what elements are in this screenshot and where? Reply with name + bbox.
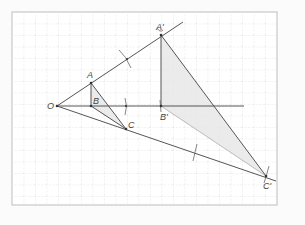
geometry-figure: O A B C A' B' C': [0, 0, 305, 225]
point-O: [56, 105, 59, 108]
label-Aprime: A': [155, 22, 164, 32]
label-Cprime: C': [263, 181, 271, 191]
point-Aprime: [160, 34, 163, 37]
point-A: [90, 82, 93, 85]
point-on-OA-arc: [126, 58, 128, 60]
point-C: [125, 128, 128, 131]
point-B: [90, 105, 93, 108]
label-A: A: [86, 70, 93, 80]
label-Bprime: B': [160, 112, 168, 122]
point-Cprime: [265, 175, 268, 178]
label-C: C: [128, 120, 135, 130]
point-on-OB-arc: [125, 105, 127, 107]
label-B: B: [93, 96, 99, 106]
point-Bprime: [160, 105, 163, 108]
label-O: O: [47, 101, 54, 111]
